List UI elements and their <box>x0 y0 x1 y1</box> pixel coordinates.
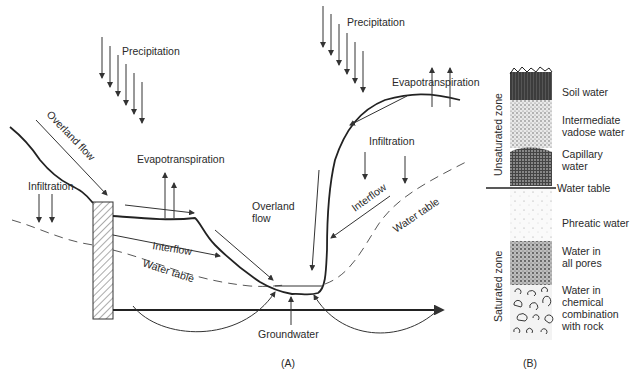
layer-label-phreatic: Phreatic water <box>562 217 630 229</box>
layer-label-chemical-3: combination <box>562 308 619 320</box>
groundwater-label: Groundwater <box>258 328 319 340</box>
overland-flow-label-center-1: Overland <box>252 200 295 212</box>
precipitation-label-right: Precipitation <box>347 16 405 28</box>
overland-flow-label-left: Overland flow <box>45 108 99 163</box>
unsaturated-zone-label: Unsaturated zone <box>492 93 504 176</box>
water-table-left-segment <box>12 220 93 245</box>
layer-label-intermediate-1: Intermediate <box>562 114 621 126</box>
infiltration-label-left: Infiltration <box>28 180 74 192</box>
layer-label-chemical-4: with rock <box>561 320 604 332</box>
overland-flow-label-center-2: flow <box>252 212 271 224</box>
saturated-zone-label: Saturated zone <box>492 251 504 322</box>
layer-label-chemical-1: Water in <box>562 284 601 296</box>
layer-label-intermediate-2: vadose water <box>562 126 625 138</box>
water-table-label-b: Water table <box>557 182 610 194</box>
layer-label-capillary-2: water <box>561 160 588 172</box>
precipitation-label-left: Precipitation <box>122 45 180 57</box>
panel-a-caption: (A) <box>281 357 295 369</box>
layer-all-pores <box>510 241 552 285</box>
panel-b-caption: (B) <box>523 357 537 369</box>
overland-flow-arrow-right <box>350 96 407 125</box>
infiltration-label-right: Infiltration <box>369 135 415 147</box>
layer-label-all-pores-2: all pores <box>562 257 602 269</box>
layer-label-soil-water: Soil water <box>562 86 609 98</box>
overland-flow-arrow-down <box>312 170 319 270</box>
water-table-label-right: Water table <box>390 195 441 235</box>
hydrologic-cycle-diagram: Precipitation Precipitation Overland flo… <box>0 0 635 385</box>
overland-flow-arrow-center <box>215 230 273 280</box>
interflow-label-right: Interflow <box>349 180 388 213</box>
layer-phreatic <box>510 186 552 241</box>
layer-label-chemical-2: chemical <box>562 296 603 308</box>
water-table-label-left: Water table <box>141 256 196 284</box>
evapotranspiration-label-right: Evapotranspiration <box>392 76 480 88</box>
layer-intermediate-vadose <box>510 100 552 148</box>
groundwater-curve-right <box>314 295 438 333</box>
interflow-label-left: Interflow <box>152 239 193 257</box>
layer-soil-water <box>510 72 552 100</box>
evapotranspiration-label-left: Evapotranspiration <box>137 153 225 165</box>
groundwater-curve-left <box>133 292 275 332</box>
layer-capillary <box>510 148 552 187</box>
layer-chemical-combination <box>510 285 552 340</box>
hatched-wall <box>93 202 113 319</box>
layer-label-capillary-1: Capillary <box>562 148 604 160</box>
layer-label-all-pores-1: Water in <box>562 245 601 257</box>
panel-a: Precipitation Precipitation Overland flo… <box>10 6 480 369</box>
panel-b: Water table Unsaturated zone Saturated z… <box>486 67 630 369</box>
surface-flow-arrow <box>125 205 194 213</box>
